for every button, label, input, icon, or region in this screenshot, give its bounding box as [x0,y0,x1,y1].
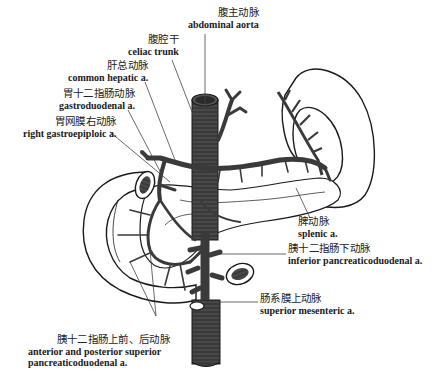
label-abdominal-aorta: 腹主动脉 abdominal aorta [188,7,259,30]
label-en-line2: pancreaticoduodenal a. [28,357,170,368]
label-en: splenic a. [298,228,337,239]
label-en: inferior pancreaticoduodenal a. [288,255,422,266]
label-zh: 胃十二指肠动脉 [59,88,135,100]
anatomy-drawing [0,0,447,384]
label-en: abdominal aorta [188,19,259,30]
label-zh: 肝总动脉 [68,60,148,72]
label-zh: 腹腔干 [128,34,179,46]
anatomy-figure: 腹主动脉 abdominal aorta 腹腔干 celiac trunk 肝总… [0,0,447,384]
label-celiac-trunk: 腹腔干 celiac trunk [128,34,179,57]
label-splenic: 脾动脉 splenic a. [298,216,337,239]
label-superior-mesenteric: 肠系膜上动脉 superior mesenteric a. [260,293,355,316]
label-right-gastroepiploic: 胃网膜右动脉 right gastroepiploic a. [23,116,116,139]
label-en: gastroduodenal a. [59,100,135,111]
label-ant-post-superior-pancreaticoduodenal: 胰十二指肠上前、后动脉 anterior and posterior super… [28,334,170,368]
label-en-line1: anterior and posterior superior [28,346,170,357]
label-common-hepatic: 肝总动脉 common hepatic a. [68,60,148,83]
label-zh: 腹主动脉 [188,7,259,19]
label-zh: 脾动脉 [298,216,337,228]
label-zh: 胰十二指肠下动脉 [288,243,422,255]
label-zh: 胰十二指肠上前、后动脉 [28,334,170,346]
label-gastroduodenal: 胃十二指肠动脉 gastroduodenal a. [59,88,135,111]
label-zh: 胃网膜右动脉 [23,116,116,128]
label-zh: 肠系膜上动脉 [260,293,355,305]
label-en: common hepatic a. [68,72,148,83]
label-en: superior mesenteric a. [260,305,355,316]
label-inferior-pancreaticoduodenal: 胰十二指肠下动脉 inferior pancreaticoduodenal a. [288,243,422,266]
abdominal-aorta-vessel [192,94,220,367]
label-en: right gastroepiploic a. [23,128,116,139]
label-en: celiac trunk [128,46,179,57]
jejunum-cut [223,260,256,288]
